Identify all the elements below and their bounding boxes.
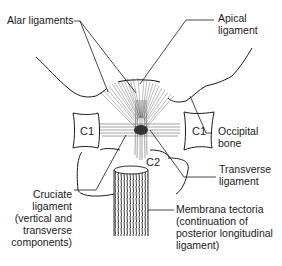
alar-fibers-right [138,78,174,128]
ligament-center [134,125,148,135]
c2-label: C2 [146,156,160,168]
label-occipital-bone: Occipital bone [218,125,258,149]
label-cruciate-ligament: Cruciate ligament (vertical and transver… [11,188,72,248]
c1-left-label: C1 [80,125,94,137]
label-membrana-tectoria: Membrana tectoria (continuation of poste… [176,203,273,251]
c1-right-label: C1 [192,125,206,137]
label-transverse-ligament: Transverse ligament [219,163,271,187]
alar-fibers-left [100,78,141,128]
occipital-bone-outline-left [36,57,106,97]
occipital-bone-outline-right [168,48,252,102]
label-apical-ligament: Apical ligament [218,12,258,36]
membrana-tectoria-column [114,166,148,236]
label-alar-ligaments: Alar ligaments [7,14,74,26]
